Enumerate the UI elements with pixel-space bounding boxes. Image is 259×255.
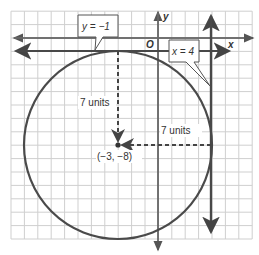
center-point	[115, 142, 120, 147]
callout-y-neg1: y = −1	[78, 15, 118, 50]
coordinate-plane: y = −1 x = 4 y x O 7 units 7 units (−3, …	[0, 0, 259, 255]
center-label: (−3, −8)	[97, 151, 132, 162]
label-y-neg1: y = −1	[81, 21, 110, 32]
horizontal-radius-label: 7 units	[161, 125, 190, 136]
x-axis-label: x	[227, 39, 234, 50]
y-axis-label: y	[162, 11, 169, 22]
origin-label: O	[146, 39, 154, 50]
grid	[11, 11, 252, 239]
vertical-radius-label: 7 units	[80, 97, 109, 108]
callout-x-4: x = 4	[169, 40, 210, 86]
label-x-4: x = 4	[171, 46, 194, 57]
